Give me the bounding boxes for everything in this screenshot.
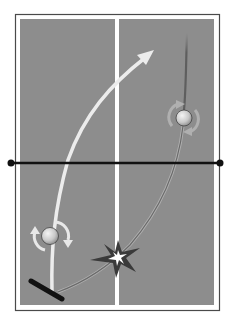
net-post-left (8, 160, 15, 167)
ball-far (176, 110, 192, 126)
net-post-right (217, 160, 224, 167)
table-tennis-diagram (0, 0, 231, 318)
ball-near (42, 228, 59, 245)
